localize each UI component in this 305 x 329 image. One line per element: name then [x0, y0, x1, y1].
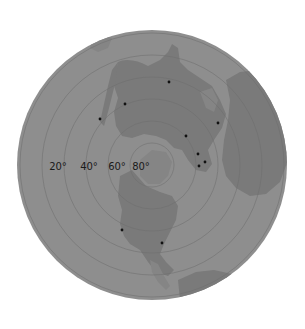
polar-map: 20° 40° 60° 80°: [0, 0, 305, 329]
marker-dot[interactable]: [204, 161, 207, 164]
marker-dot[interactable]: [217, 122, 220, 125]
lat-label-20: 20°: [49, 161, 67, 172]
marker-dot[interactable]: [197, 153, 200, 156]
land-south-america: [178, 270, 246, 312]
marker-dot[interactable]: [124, 103, 127, 106]
marker-dot[interactable]: [161, 242, 164, 245]
lat-label-80: 80°: [132, 161, 150, 172]
marker-dot[interactable]: [168, 81, 171, 84]
marker-dot[interactable]: [198, 165, 201, 168]
marker-dot[interactable]: [185, 135, 188, 138]
marker-dot[interactable]: [121, 229, 124, 232]
marker-dot[interactable]: [99, 118, 102, 121]
lat-label-40: 40°: [80, 161, 98, 172]
lat-label-60: 60°: [108, 161, 126, 172]
